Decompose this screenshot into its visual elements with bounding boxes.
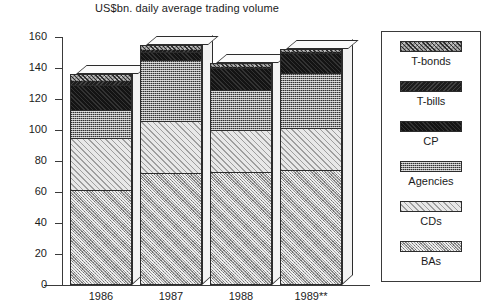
legend-label: BAs xyxy=(421,256,441,267)
bar-top-face xyxy=(216,54,289,63)
bar-top-face xyxy=(286,40,359,49)
bar-side-face xyxy=(342,40,353,285)
legend-swatch xyxy=(400,81,462,92)
legend-item-cds[interactable]: CDs xyxy=(382,201,480,227)
legend-item-cp[interactable]: CP xyxy=(382,121,480,147)
bar-segment-bas[interactable] xyxy=(71,191,131,285)
x-axis-label: 1989** xyxy=(276,290,346,300)
bar-segment-cp[interactable] xyxy=(141,53,201,61)
x-axis-label: 1986 xyxy=(66,290,136,300)
bar-column[interactable] xyxy=(280,37,342,285)
legend: T-bondsT-billsCPAgenciesCDsBAs xyxy=(381,31,481,282)
bar-segment-cds[interactable] xyxy=(211,131,271,173)
bar-segment-bas[interactable] xyxy=(141,174,201,285)
bar-front-face xyxy=(140,45,202,285)
legend-label: CDs xyxy=(420,216,441,227)
bar-segment-bas[interactable] xyxy=(211,173,271,285)
bar-segment-agencies[interactable] xyxy=(211,91,271,131)
bar-top-face xyxy=(146,36,219,45)
bar-segment-agencies[interactable] xyxy=(71,111,131,139)
bar-column[interactable] xyxy=(70,62,132,285)
plot-area: 160140120100806040200 1986198719881989** xyxy=(0,20,374,300)
bar-top-face xyxy=(76,65,149,74)
bar-segment-cp[interactable] xyxy=(211,69,271,91)
legend-label: T-bills xyxy=(417,96,446,107)
bar-column[interactable] xyxy=(140,33,202,285)
legend-item-agencies[interactable]: Agencies xyxy=(382,161,480,187)
bar-column[interactable] xyxy=(210,51,272,285)
chart-title: US$bn. daily average trading volume xyxy=(0,2,374,14)
legend-label: Agencies xyxy=(408,176,453,187)
x-axis-label: 1988 xyxy=(206,290,276,300)
bar-front-face xyxy=(280,49,342,285)
x-axis-label: 1987 xyxy=(136,290,206,300)
bar-segment-cp[interactable] xyxy=(281,54,341,74)
bar-front-face xyxy=(210,63,272,285)
legend-swatch xyxy=(400,41,462,52)
bar-segment-cp[interactable] xyxy=(71,86,131,111)
bar-segment-cds[interactable] xyxy=(141,122,201,175)
legend-swatch xyxy=(400,241,462,252)
bar-segment-agencies[interactable] xyxy=(281,74,341,130)
bar-segment-cds[interactable] xyxy=(281,129,341,171)
legend-item-tbonds[interactable]: T-bonds xyxy=(382,41,480,67)
legend-label: T-bonds xyxy=(411,56,451,67)
chart-root: US$bn. daily average trading volume 1601… xyxy=(0,0,490,300)
bar-front-face xyxy=(70,74,132,285)
legend-swatch xyxy=(400,161,462,172)
legend-item-bas[interactable]: BAs xyxy=(382,241,480,267)
bar-segment-cds[interactable] xyxy=(71,139,131,192)
legend-swatch xyxy=(400,121,462,132)
bar-series-container xyxy=(0,20,374,300)
legend-item-tbills[interactable]: T-bills xyxy=(382,81,480,107)
legend-label: CP xyxy=(423,136,438,147)
bar-segment-bas[interactable] xyxy=(281,171,341,285)
bar-segment-agencies[interactable] xyxy=(141,61,201,121)
legend-swatch xyxy=(400,201,462,212)
